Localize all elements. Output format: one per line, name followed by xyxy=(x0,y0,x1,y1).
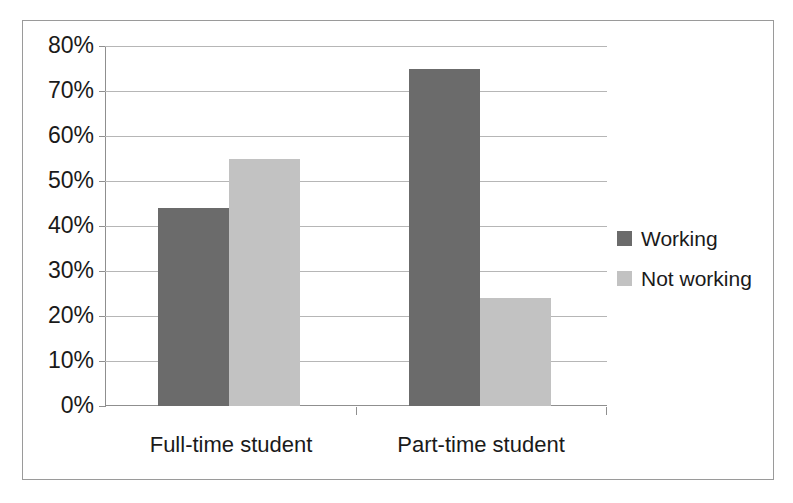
bar-not-working-full-time[interactable] xyxy=(229,159,300,407)
legend-item-not-working[interactable]: Not working xyxy=(617,258,752,298)
gridline-70 xyxy=(105,91,607,92)
x-axis-end-tick xyxy=(606,407,607,415)
y-axis-tick-label: 0% xyxy=(61,394,94,417)
bar-working-full-time[interactable] xyxy=(158,208,229,406)
y-axis-labels: 80% 70% 60% 50% 40% 30% 20% 10% 0% xyxy=(0,0,94,503)
y-axis-tick-label: 30% xyxy=(48,259,94,282)
y-axis-tick-label: 20% xyxy=(48,304,94,327)
y-axis-tick-label: 40% xyxy=(48,214,94,237)
y-axis-tick-label: 60% xyxy=(48,124,94,147)
legend-swatch-not-working-icon xyxy=(617,271,632,286)
legend-label-not-working: Not working xyxy=(641,268,752,289)
y-axis-tick-label: 70% xyxy=(48,79,94,102)
gridline-60 xyxy=(105,136,607,137)
y-axis-tick-label: 10% xyxy=(48,349,94,372)
plot-area xyxy=(105,46,607,406)
x-axis-label-full-time: Full-time student xyxy=(106,434,356,456)
legend-item-working[interactable]: Working xyxy=(617,218,752,258)
bar-working-part-time[interactable] xyxy=(409,69,480,407)
chart-screenshot: 80% 70% 60% 50% 40% 30% 20% 10% 0% xyxy=(0,0,793,503)
x-axis-label-part-time: Part-time student xyxy=(356,434,606,456)
legend: Working Not working xyxy=(617,218,752,298)
x-axis-category-tick xyxy=(356,407,357,415)
gridline-80 xyxy=(105,46,607,47)
legend-swatch-working-icon xyxy=(617,231,632,246)
y-axis-tick-label: 80% xyxy=(48,34,94,57)
gridline-50 xyxy=(105,181,607,182)
legend-label-working: Working xyxy=(641,228,718,249)
bar-not-working-part-time[interactable] xyxy=(480,298,551,406)
y-axis-tick-label: 50% xyxy=(48,169,94,192)
